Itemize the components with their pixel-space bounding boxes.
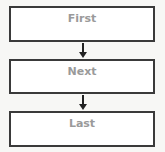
- flow-step-next: Next: [9, 59, 155, 94]
- flowchart: First Next Last: [0, 0, 165, 152]
- flow-step-first: First: [9, 6, 155, 42]
- flow-step-label: Last: [11, 113, 153, 131]
- flow-step-label: Next: [11, 61, 153, 79]
- flow-step-last: Last: [9, 111, 155, 147]
- arrow-down-icon: [79, 95, 87, 110]
- arrow-down-icon: [79, 43, 87, 58]
- flow-step-label: First: [11, 8, 153, 26]
